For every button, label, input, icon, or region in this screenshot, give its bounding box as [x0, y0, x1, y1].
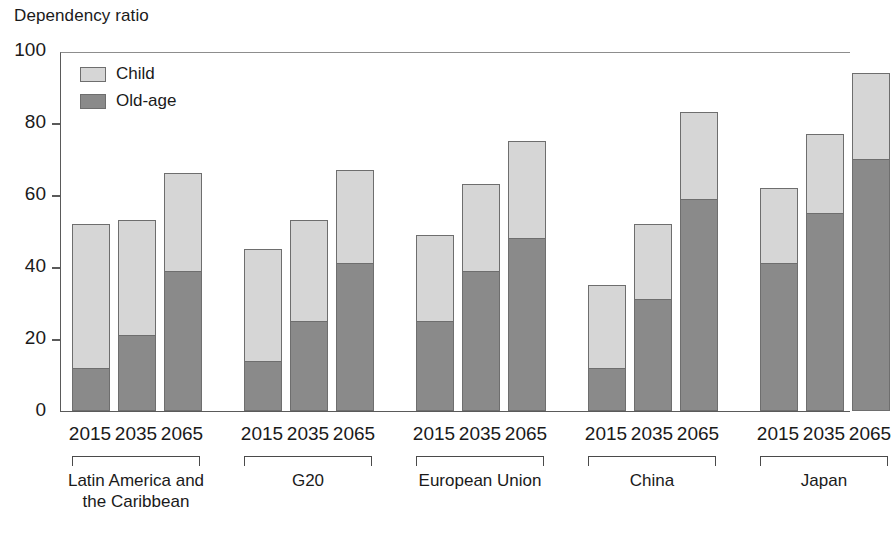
bar [462, 184, 500, 411]
bar [806, 134, 844, 411]
bar-segment-child [462, 184, 500, 270]
x-axis-tick-label: 2035 [455, 423, 505, 445]
bar [508, 141, 546, 411]
bar-segment-child [118, 220, 156, 335]
legend-item-child: Child [80, 64, 176, 84]
legend-label-child: Child [116, 64, 155, 84]
bar-segment-child [244, 249, 282, 361]
legend-item-old-age: Old-age [80, 91, 176, 111]
y-tick-mark-icon [52, 267, 60, 269]
bar-segment-child [806, 134, 844, 213]
group-bracket [588, 456, 716, 466]
x-axis-tick-label: 2035 [799, 423, 849, 445]
x-axis-tick-label: 2015 [65, 423, 115, 445]
x-axis-tick-label: 2065 [501, 423, 551, 445]
bar-segment-child [290, 220, 328, 321]
bar-segment-child [164, 173, 202, 270]
y-tick-label: 20 [25, 327, 46, 349]
group-bracket [244, 456, 372, 466]
bar-segment-child [634, 224, 672, 300]
bar-segment-child [336, 170, 374, 264]
bar-segment-old-age [290, 321, 328, 411]
x-axis-tick-label: 2065 [329, 423, 379, 445]
bar [72, 224, 110, 411]
bar-segment-old-age [72, 368, 110, 411]
bar-segment-old-age [164, 271, 202, 411]
bar [164, 173, 202, 411]
bar-segment-child [72, 224, 110, 368]
legend: Child Old-age [80, 64, 176, 118]
group-bracket [72, 456, 200, 466]
bar [118, 220, 156, 411]
legend-label-old-age: Old-age [116, 91, 176, 111]
bar-segment-child [680, 112, 718, 198]
bar [588, 285, 626, 411]
x-axis-tick-label: 2065 [673, 423, 723, 445]
bar [852, 73, 890, 411]
bar-segment-old-age [336, 263, 374, 411]
bar-segment-old-age [760, 263, 798, 411]
bar-segment-old-age [588, 368, 626, 411]
bar [290, 220, 328, 411]
bar-segment-old-age [806, 213, 844, 411]
legend-swatch-old-age-icon [80, 94, 106, 109]
bar [760, 188, 798, 411]
x-axis-tick-label: 2015 [237, 423, 287, 445]
plot-area [60, 52, 850, 412]
bar [634, 224, 672, 411]
group-bracket [760, 456, 888, 466]
bar [416, 235, 454, 411]
x-axis-tick-label: 2015 [581, 423, 631, 445]
bar-segment-child [588, 285, 626, 368]
y-tick-mark-icon [52, 339, 60, 341]
x-axis-tick-label: 2035 [111, 423, 161, 445]
group-label-line: the Caribbean [22, 491, 250, 512]
bar-segment-old-age [634, 299, 672, 411]
bar-segment-old-age [416, 321, 454, 411]
y-tick-mark-icon [52, 195, 60, 197]
bar-segment-old-age [508, 238, 546, 411]
x-axis-tick-label: 2015 [753, 423, 803, 445]
group-bracket [416, 456, 544, 466]
y-tick-label: 100 [14, 39, 46, 61]
y-tick-label: 80 [25, 111, 46, 133]
bar [336, 170, 374, 411]
x-axis-tick-label: 2035 [283, 423, 333, 445]
bar-segment-old-age [462, 271, 500, 411]
x-axis-tick-label: 2035 [627, 423, 677, 445]
bar-segment-child [508, 141, 546, 238]
y-tick-label: 0 [35, 399, 46, 421]
y-tick-mark-icon [52, 123, 60, 125]
bar-segment-old-age [118, 335, 156, 411]
group-label: Japan [710, 470, 895, 491]
y-tick-label: 60 [25, 183, 46, 205]
legend-swatch-child-icon [80, 67, 106, 82]
chart-title: Dependency ratio [14, 6, 149, 26]
x-axis-tick-label: 2065 [845, 423, 895, 445]
bar-segment-child [852, 73, 890, 159]
group-label-line: Japan [710, 470, 895, 491]
x-axis-tick-label: 2015 [409, 423, 459, 445]
bar-segment-old-age [680, 199, 718, 411]
bar-segment-old-age [244, 361, 282, 411]
bar [680, 112, 718, 411]
bar [244, 249, 282, 411]
bar-segment-old-age [852, 159, 890, 411]
x-axis-tick-label: 2065 [157, 423, 207, 445]
bar-segment-child [760, 188, 798, 264]
bar-segment-child [416, 235, 454, 321]
y-tick-label: 40 [25, 255, 46, 277]
